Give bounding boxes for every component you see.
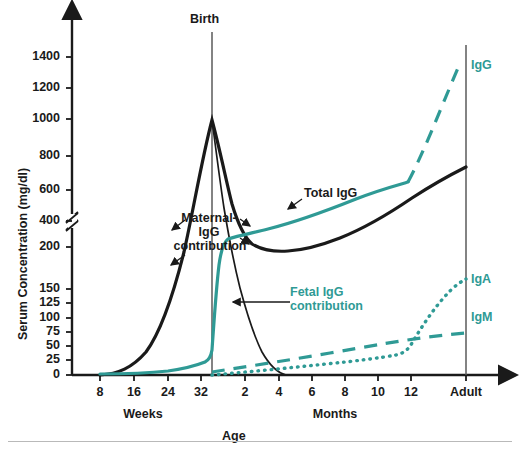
x-tick-label: 2 — [228, 385, 262, 399]
y-tick-label: 0 — [14, 367, 60, 381]
y-tick-label: 125 — [14, 295, 60, 309]
total-igg-curve — [100, 120, 466, 375]
maternal-igg-label-line3: contribution — [172, 239, 248, 253]
x-group-months: Months — [300, 407, 370, 421]
igm-dashed-curve — [212, 333, 466, 372]
x-tick-label: 12 — [394, 385, 428, 399]
x-group-weeks: Weeks — [108, 407, 178, 421]
igm-label: IgM — [471, 310, 493, 324]
birth-label: Birth — [190, 12, 219, 26]
iga-label: IgA — [471, 272, 491, 286]
y-tick-label: 25 — [14, 352, 60, 366]
y-tick-label: 800 — [14, 148, 60, 162]
x-tick-label: 6 — [295, 385, 329, 399]
x-tick-label: 4 — [262, 385, 296, 399]
total-igg-leader — [288, 199, 302, 209]
chart-figure: Serum Concentration (mg/dl) 1400 1200 10… — [0, 0, 520, 458]
bottom-divider — [8, 441, 512, 442]
y-tick-label: 200 — [14, 239, 60, 253]
x-tick-label-adult: Adult — [443, 385, 489, 399]
fetal-igg-curve — [100, 182, 408, 374]
y-tick-label: 600 — [14, 182, 60, 196]
x-tick-label: 8 — [328, 385, 362, 399]
maternal-igg-label-line2: IgG — [176, 225, 242, 239]
y-tick-label: 100 — [14, 310, 60, 324]
y-tick-label: 400 — [14, 213, 60, 227]
x-tick-label: 32 — [184, 385, 218, 399]
fetal-igg-label-line2: contribution — [290, 299, 386, 313]
total-igg-label: Total IgG — [304, 186, 357, 200]
y-tick-label: 1400 — [14, 49, 60, 63]
y-tick-label: 75 — [14, 324, 60, 338]
igg-label: IgG — [471, 58, 492, 72]
y-tick-label: 50 — [14, 338, 60, 352]
x-tick-label: 10 — [361, 385, 395, 399]
x-tick-label: 8 — [83, 385, 117, 399]
y-tick-label: 1000 — [14, 111, 60, 125]
igg-dashed-extension — [408, 68, 458, 182]
fetal-igg-label-line1: Fetal IgG — [290, 285, 376, 299]
x-tick-label: 16 — [117, 385, 151, 399]
x-tick-label: 24 — [151, 385, 185, 399]
y-tick-label: 150 — [14, 281, 60, 295]
maternal-igg-label-line1: Maternal- — [176, 211, 242, 225]
y-tick-label: 1200 — [14, 80, 60, 94]
